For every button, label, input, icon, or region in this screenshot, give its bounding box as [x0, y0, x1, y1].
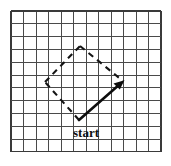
grid-diagram-figure: start	[0, 0, 171, 166]
diagram-canvas: start	[0, 0, 171, 166]
start-label: start	[73, 125, 100, 140]
